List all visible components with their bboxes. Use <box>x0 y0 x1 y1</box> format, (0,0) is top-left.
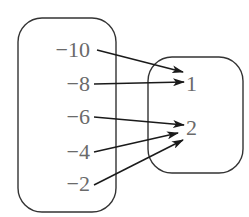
mapping-arrow <box>97 50 183 72</box>
mapping-arrow <box>94 117 184 125</box>
mapping-diagram: −10 −8 −6 −4 −2 1 2 <box>0 0 249 217</box>
mapping-arrow <box>94 140 183 185</box>
domain-element: −10 <box>56 37 90 62</box>
domain-element: −8 <box>67 71 90 96</box>
domain-element: −2 <box>67 171 90 196</box>
range-element: 2 <box>186 115 197 140</box>
range-element: 1 <box>186 71 197 96</box>
domain-element: −4 <box>67 139 90 164</box>
domain-element: −6 <box>67 104 90 129</box>
mapping-arrow <box>94 82 184 84</box>
